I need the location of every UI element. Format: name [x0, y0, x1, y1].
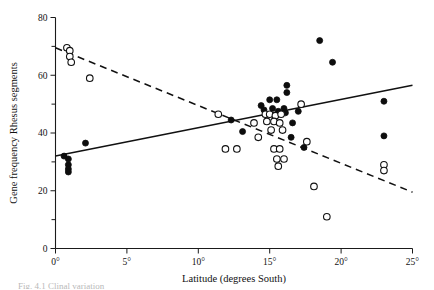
- data-point-open: [255, 134, 262, 141]
- data-point-open: [311, 183, 318, 190]
- x-tick-label: 10°: [192, 257, 206, 267]
- data-point-filled: [65, 169, 71, 175]
- data-point-filled: [284, 82, 290, 88]
- data-point-open: [234, 146, 241, 153]
- data-point-filled: [381, 98, 387, 104]
- y-axis-ticks: 020406080: [38, 13, 56, 254]
- data-point-filled: [290, 120, 296, 126]
- data-point-open: [281, 156, 288, 163]
- data-point-open: [251, 120, 258, 127]
- scatter-plot: 0°5°10°15°20°25° 020406080 Latitude (deg…: [0, 0, 434, 290]
- data-point-open: [304, 138, 311, 145]
- data-point-open: [324, 213, 331, 220]
- y-tick-label: 0: [43, 244, 48, 254]
- data-points: [61, 38, 387, 220]
- axes: [56, 18, 413, 249]
- y-tick-label: 60: [38, 71, 48, 81]
- data-point-filled: [381, 133, 387, 139]
- x-axis-ticks: 0°5°10°15°20°25°: [51, 249, 419, 267]
- x-tick-label: 5°: [123, 257, 132, 267]
- data-point-open: [268, 127, 275, 134]
- data-point-filled: [317, 38, 323, 44]
- x-tick-label: 0°: [51, 257, 60, 267]
- data-point-open: [276, 146, 283, 153]
- data-point-filled: [284, 90, 290, 96]
- data-point-filled: [65, 156, 71, 162]
- data-point-filled: [82, 140, 88, 146]
- data-point-open: [86, 75, 93, 82]
- data-point-filled: [295, 108, 301, 114]
- data-point-filled: [274, 97, 280, 103]
- data-point-open: [222, 146, 229, 153]
- data-point-filled: [288, 134, 294, 140]
- y-tick-label: 40: [38, 128, 48, 138]
- y-tick-label: 80: [38, 13, 48, 23]
- data-point-open: [68, 59, 75, 66]
- data-point-open: [278, 111, 285, 118]
- x-tick-label: 20°: [334, 257, 348, 267]
- y-tick-label: 20: [38, 186, 48, 196]
- data-point-open: [264, 118, 271, 125]
- figure-caption-partial: Fig. 4.1 Clinal variation: [18, 282, 208, 289]
- figure-container: 0°5°10°15°20°25° 020406080 Latitude (deg…: [0, 0, 434, 290]
- data-point-open: [276, 120, 283, 127]
- data-point-open: [381, 167, 388, 174]
- data-point-open: [279, 127, 286, 134]
- data-point-open: [274, 156, 281, 163]
- data-point-filled: [228, 117, 234, 123]
- data-point-open: [275, 163, 282, 170]
- data-point-open: [215, 111, 222, 118]
- data-point-filled: [330, 59, 336, 65]
- data-point-open: [298, 101, 305, 108]
- x-tick-label: 25°: [406, 257, 420, 267]
- y-axis-label: Gene frequency Rhesus segments: [8, 62, 19, 203]
- data-point-filled: [267, 97, 273, 103]
- data-point-filled: [240, 129, 246, 135]
- x-tick-label: 15°: [263, 257, 277, 267]
